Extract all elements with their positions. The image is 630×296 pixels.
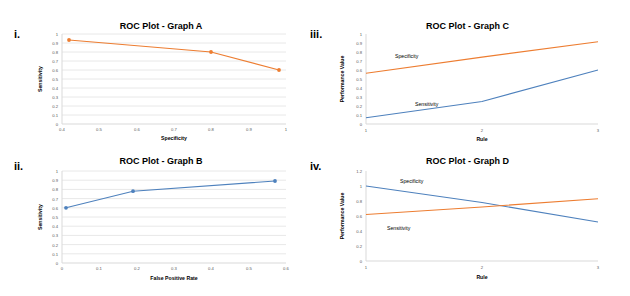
svg-text:0.3: 0.3 [52, 95, 58, 100]
svg-text:0.6: 0.6 [356, 68, 362, 73]
y-axis-title-b: Sensitivity [37, 204, 43, 230]
svg-text:1: 1 [56, 169, 59, 174]
svg-text:0.1: 0.1 [52, 252, 58, 257]
svg-text:0.6: 0.6 [356, 214, 362, 219]
panel-graph-c: iii. ROC Plot - Graph C 0 0.1 0.2 0.3 0.… [310, 20, 610, 142]
x-tick-labels-a: 0.4 0.5 0.6 0.7 0.8 0.9 1 [59, 127, 288, 132]
svg-text:0.4: 0.4 [356, 86, 362, 91]
svg-text:0.4: 0.4 [356, 229, 362, 234]
panel-graph-d: iv. ROC Plot - Graph D 0 0.2 0.4 0.6 0.8… [310, 155, 610, 283]
data-point [273, 179, 277, 183]
y-axis-title-d: Performance Value [339, 193, 345, 240]
y-tick-labels-c: 0 0.1 0.2 0.3 0.4 0.5 0.6 0.7 0.8 0.9 1 [356, 32, 362, 127]
chart-graph-a: 0 0.1 0.2 0.3 0.4 0.5 0.6 0.7 0.8 0.9 1 … [14, 20, 300, 142]
data-point [67, 38, 71, 42]
data-point [209, 50, 213, 54]
svg-text:1: 1 [365, 265, 368, 270]
svg-text:0.9: 0.9 [52, 41, 58, 46]
svg-text:2: 2 [481, 265, 484, 270]
x-tick-labels-d: 1 2 3 [365, 265, 600, 270]
svg-text:0.3: 0.3 [356, 95, 362, 100]
svg-text:0.1: 0.1 [96, 266, 102, 271]
svg-text:0.8: 0.8 [356, 199, 362, 204]
panel-marker-iii: iii. [310, 28, 322, 40]
svg-text:0.1: 0.1 [52, 113, 58, 118]
chart-graph-d: 0 0.2 0.4 0.6 0.8 1 1.2 1 2 3 Rule Perfo… [310, 155, 610, 283]
svg-text:0.2: 0.2 [356, 244, 362, 249]
svg-text:0.4: 0.4 [52, 224, 58, 229]
svg-text:0.5: 0.5 [52, 77, 58, 82]
svg-text:0.2: 0.2 [356, 104, 362, 109]
series-line-sensitivity-c [366, 70, 598, 118]
svg-text:0: 0 [360, 122, 363, 127]
y-tick-labels-b: 0 0.1 0.2 0.3 0.4 0.5 0.6 0.7 0.8 0.9 1 [52, 169, 58, 266]
series-line-b [66, 181, 275, 208]
panel-marker-iv: iv. [310, 160, 321, 172]
svg-text:0.9: 0.9 [356, 41, 362, 46]
svg-text:0.2: 0.2 [52, 243, 58, 248]
svg-text:0.2: 0.2 [52, 104, 58, 109]
chart-title-b: ROC Plot - Graph B [36, 155, 286, 167]
y-axis-title-a: Sensitivity [37, 66, 43, 92]
svg-text:0.8: 0.8 [208, 127, 214, 132]
svg-text:2: 2 [481, 128, 484, 133]
y-tick-labels-a: 0 0.1 0.2 0.3 0.4 0.5 0.6 0.7 0.8 0.9 1 [52, 32, 58, 127]
svg-text:0.6: 0.6 [52, 68, 58, 73]
svg-text:3: 3 [597, 265, 600, 270]
svg-text:0.3: 0.3 [171, 266, 177, 271]
svg-text:1: 1 [360, 32, 363, 37]
svg-text:1: 1 [360, 184, 363, 189]
x-tick-labels-b: 0 0.1 0.2 0.3 0.4 0.5 0.6 [61, 266, 290, 271]
panel-marker-i: i. [14, 28, 20, 40]
x-axis-title-c: Rule [476, 136, 487, 142]
svg-text:0.1: 0.1 [356, 113, 362, 118]
panel-graph-a: i. ROC Plot - Graph A 0 0.1 0.2 0.3 0.4 … [14, 20, 300, 142]
svg-text:1: 1 [285, 127, 288, 132]
svg-text:0.8: 0.8 [52, 187, 58, 192]
annotation-specificity-c: Specificity [395, 53, 419, 59]
svg-text:0.7: 0.7 [356, 59, 362, 64]
svg-text:0: 0 [360, 259, 363, 264]
x-axis-title-b: False Positive Rate [150, 275, 197, 281]
x-axis-title-d: Rule [476, 274, 487, 280]
svg-text:0.5: 0.5 [246, 266, 252, 271]
svg-text:0.4: 0.4 [59, 127, 65, 132]
chart-graph-c: 0 0.1 0.2 0.3 0.4 0.5 0.6 0.7 0.8 0.9 1 … [310, 20, 610, 142]
svg-text:0.4: 0.4 [208, 266, 214, 271]
data-point [277, 68, 281, 72]
x-axis-title-a: Specificity [161, 135, 187, 141]
svg-text:0.6: 0.6 [283, 266, 289, 271]
svg-text:0.5: 0.5 [356, 77, 362, 82]
svg-text:0: 0 [56, 261, 59, 266]
panel-graph-b: ii. ROC Plot - Graph B 0 0.1 0.2 0.3 0.4… [14, 155, 300, 283]
svg-text:0.7: 0.7 [52, 197, 58, 202]
svg-text:0.9: 0.9 [246, 127, 252, 132]
svg-text:0.9: 0.9 [52, 178, 58, 183]
svg-text:0.6: 0.6 [52, 206, 58, 211]
svg-text:0.7: 0.7 [171, 127, 177, 132]
svg-text:0.7: 0.7 [52, 59, 58, 64]
panel-marker-ii: ii. [14, 160, 23, 172]
y-axis-title-c: Performance Value [339, 56, 345, 103]
svg-text:1: 1 [56, 32, 59, 37]
annotation-sensitivity-d: Sensitivity [387, 225, 411, 231]
series-line-specificity-d [366, 186, 598, 222]
series-line-sensitivity-d [366, 199, 598, 215]
svg-text:0.3: 0.3 [52, 233, 58, 238]
svg-text:0.2: 0.2 [134, 266, 140, 271]
gridlines-b [62, 171, 286, 254]
svg-text:0.8: 0.8 [52, 50, 58, 55]
svg-text:3: 3 [597, 128, 600, 133]
svg-text:0.6: 0.6 [134, 127, 140, 132]
chart-graph-b: 0 0.1 0.2 0.3 0.4 0.5 0.6 0.7 0.8 0.9 1 … [14, 155, 300, 283]
svg-text:0.5: 0.5 [96, 127, 102, 132]
svg-text:0.5: 0.5 [52, 215, 58, 220]
chart-title-d: ROC Plot - Graph D [340, 155, 595, 167]
y-tick-labels-d: 0 0.2 0.4 0.6 0.8 1 1.2 [356, 169, 362, 264]
chart-title-c: ROC Plot - Graph C [340, 20, 595, 32]
annotation-specificity-d: Specificity [400, 178, 424, 184]
gridlines-a [62, 34, 286, 115]
chart-title-a: ROC Plot - Graph A [36, 20, 286, 32]
svg-text:0: 0 [61, 266, 64, 271]
svg-text:0.8: 0.8 [356, 50, 362, 55]
